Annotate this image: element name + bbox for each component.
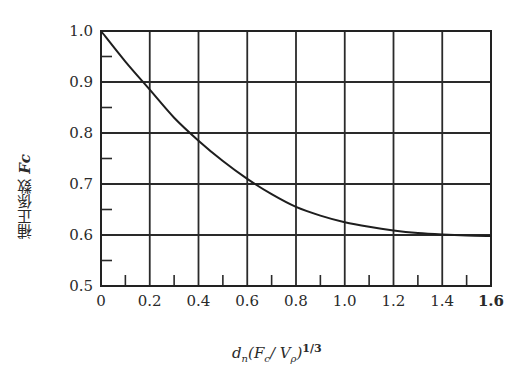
- x-tick-label: 0.8: [284, 292, 308, 310]
- y-tick-label: 0.5: [69, 277, 93, 295]
- x-tick-label: 0.2: [138, 292, 162, 310]
- x-axis-label: dn(Fc/ Vρ)1/3: [232, 342, 322, 364]
- y-tick-label: 0.7: [69, 175, 93, 193]
- y-axis-label-text: 補正係数: [16, 174, 34, 239]
- x-tick-label: 1.0: [333, 292, 357, 310]
- x-tick-label: 0.6: [235, 292, 259, 310]
- x-label-exponent: 1/3: [302, 342, 321, 355]
- y-tick-label: 0.6: [69, 226, 93, 244]
- x-tick-label: 1.2: [382, 292, 406, 310]
- y-tick-label: 0.8: [69, 124, 93, 142]
- y-axis-tick-labels: 0.50.60.70.80.91.0: [69, 22, 93, 295]
- y-axis-label-symbol: Fc: [16, 154, 34, 174]
- y-tick-label: 1.0: [69, 22, 93, 40]
- minor-ticks: [101, 57, 467, 287]
- x-tick-label: 0: [96, 292, 106, 310]
- x-label-F: (F: [248, 344, 264, 362]
- x-axis-tick-labels: 00.20.40.60.81.01.21.41.6: [96, 292, 504, 310]
- x-tick-label: 1.4: [430, 292, 454, 310]
- grid-lines: [101, 31, 491, 286]
- y-tick-label: 0.9: [69, 73, 93, 91]
- x-tick-label: 0.4: [187, 292, 211, 310]
- x-tick-label: 1.6: [478, 292, 504, 310]
- chart-canvas: 00.20.40.60.81.01.21.41.6 0.50.60.70.80.…: [0, 0, 521, 380]
- x-label-d: d: [232, 344, 242, 362]
- x-label-V: / V: [270, 344, 291, 362]
- y-axis-label: 補正係数 Fc: [14, 154, 34, 239]
